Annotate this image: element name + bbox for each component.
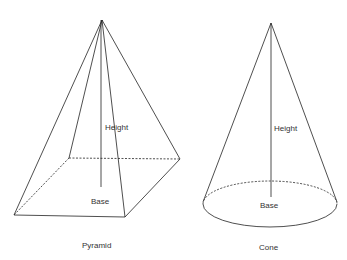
cone-height-label: Height (274, 124, 298, 133)
pyramid-hidden-lateral-edge (69, 20, 102, 158)
pyramid-base-front (14, 215, 125, 217)
pyramid-base-label: Base (91, 197, 110, 206)
cone-base-label: Base (260, 201, 279, 210)
pyramid-title: Pyramid (82, 241, 111, 250)
pyramid-hidden-edge-left (14, 158, 69, 215)
pyramid-edge-front-left (14, 20, 102, 215)
pyramid-edge-back-right (102, 20, 180, 159)
cone-figure (203, 23, 337, 227)
pyramid-hidden-edge-back (69, 158, 180, 159)
pyramid-figure (14, 20, 180, 217)
cone-left-edge (203, 23, 271, 202)
solids-diagram: Height Base Pyramid Height Base Cone (0, 0, 347, 260)
pyramid-base-right (125, 159, 180, 217)
cone-title: Cone (259, 243, 279, 252)
cone-right-edge (271, 23, 337, 202)
pyramid-edge-front-right (102, 20, 125, 217)
pyramid-height-label: Height (105, 123, 129, 132)
